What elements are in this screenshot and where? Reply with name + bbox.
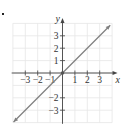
x-tick-label: 1	[73, 75, 78, 85]
y-tick-label: 1	[54, 56, 59, 66]
y-axis-arrow-icon	[61, 18, 65, 23]
y-tick-label: −2	[48, 93, 58, 103]
x-axis-label: x	[115, 74, 121, 85]
coordinate-plane: −3−2−1123−3−2123xy	[0, 0, 129, 130]
y-tick-label: 2	[54, 44, 59, 54]
y-tick-label: −3	[48, 106, 58, 116]
y-axis-label: y	[55, 13, 61, 24]
y-tick-label: 3	[54, 31, 59, 41]
x-tick-label: −1	[45, 75, 55, 85]
origin-point	[61, 71, 65, 75]
x-tick-label: 2	[85, 75, 90, 85]
x-tick-label: −2	[33, 75, 43, 85]
x-tick-label: −3	[20, 75, 30, 85]
x-tick-label: 3	[97, 75, 102, 85]
line-y-equals-x	[14, 25, 111, 122]
